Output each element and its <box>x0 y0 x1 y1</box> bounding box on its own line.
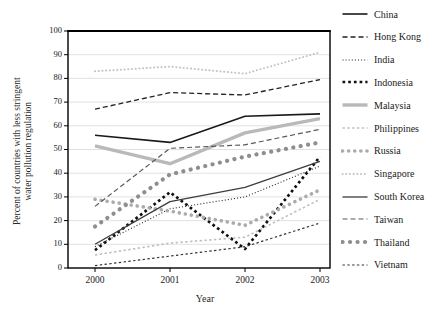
y-tick-label: 70 <box>54 96 63 106</box>
legend-swatch-singapore <box>341 169 369 179</box>
series-line-hong-kong <box>95 80 320 110</box>
legend-swatch-philippines <box>341 123 369 133</box>
legend-item-malaysia: Malaysia <box>341 99 441 111</box>
legend-swatch-malaysia <box>341 100 369 110</box>
legend-label-south-korea: South Korea <box>374 191 424 202</box>
legend-swatch-thailand <box>341 237 369 247</box>
x-tick-label: 2003 <box>311 275 330 285</box>
figure-root: 01020304050607080901002000200120022003 P… <box>0 0 442 322</box>
y-tick-label: 30 <box>54 191 63 201</box>
legend-swatch-indonesia <box>341 77 369 87</box>
y-tick-label: 0 <box>58 262 62 272</box>
y-tick-label: 60 <box>54 120 63 130</box>
legend-item-china: China <box>341 8 441 20</box>
legend-item-thailand: Thailand <box>341 236 441 248</box>
legend-label-thailand: Thailand <box>374 237 410 248</box>
legend-label-china: China <box>374 9 398 20</box>
x-tick-label: 2002 <box>236 275 255 285</box>
y-tick-label: 90 <box>54 49 63 59</box>
series-line-south-korea <box>95 161 320 244</box>
legend-item-russia: Russia <box>341 145 441 157</box>
series-line-indonesia <box>95 157 320 251</box>
legend-item-philippines: Philippines <box>341 122 441 134</box>
legend-label-taiwan: Taiwan <box>374 214 403 225</box>
x-axis-title: Year <box>175 293 235 304</box>
legend-swatch-hong-kong <box>341 32 369 42</box>
legend-label-philippines: Philippines <box>374 123 419 134</box>
x-tick-label: 2000 <box>86 275 105 285</box>
legend-item-vietnam: Vietnam <box>341 259 441 271</box>
legend-label-malaysia: Malaysia <box>374 100 411 111</box>
y-tick-label: 100 <box>49 25 62 35</box>
legend-item-hong-kong: Hong Kong <box>341 31 441 43</box>
y-tick-label: 10 <box>54 238 63 248</box>
legend-swatch-vietnam <box>341 260 369 270</box>
x-tick-label: 2001 <box>161 275 180 285</box>
legend-swatch-india <box>341 55 369 65</box>
legend-swatch-south-korea <box>341 192 369 202</box>
legend-label-vietnam: Vietnam <box>374 259 408 270</box>
series-line-singapore <box>95 52 320 73</box>
legend-item-taiwan: Taiwan <box>341 213 441 225</box>
legend-label-indonesia: Indonesia <box>374 77 413 88</box>
legend-swatch-china <box>341 9 369 19</box>
y-tick-label: 80 <box>54 72 63 82</box>
y-tick-label: 50 <box>54 143 63 153</box>
legend-label-hong-kong: Hong Kong <box>374 31 421 42</box>
y-tick-label: 20 <box>54 215 63 225</box>
legend-item-south-korea: South Korea <box>341 191 441 203</box>
legend-label-singapore: Singapore <box>374 168 415 179</box>
legend-label-india: India <box>374 54 395 65</box>
legend-item-india: India <box>341 54 441 66</box>
legend-swatch-russia <box>341 146 369 156</box>
y-tick-label: 40 <box>54 167 63 177</box>
series-line-china <box>95 114 320 142</box>
legend-label-russia: Russia <box>374 145 401 156</box>
legend: ChinaHong KongIndiaIndonesiaMalaysiaPhil… <box>341 8 441 271</box>
legend-item-singapore: Singapore <box>341 168 441 180</box>
legend-item-indonesia: Indonesia <box>341 76 441 88</box>
series-line-philippines <box>95 199 320 255</box>
legend-swatch-taiwan <box>341 214 369 224</box>
series-line-india <box>95 166 320 247</box>
y-axis-title: Percent of countries with less stringent… <box>12 66 34 236</box>
